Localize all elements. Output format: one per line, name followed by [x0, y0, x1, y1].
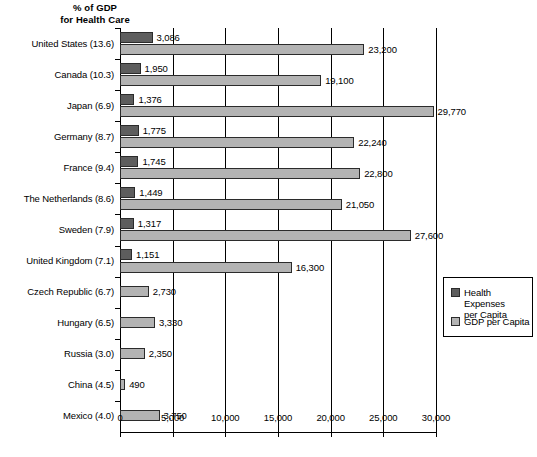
- legend-item-gdp: GDP per Capita: [451, 316, 530, 327]
- bar-value-label: 27,600: [415, 230, 443, 241]
- plot-area: 3,08623,2001,95019,1001,37629,7701,77522…: [120, 28, 436, 432]
- category-label: Czech Republic (6.7): [0, 286, 114, 297]
- bar-value-label: 490: [129, 379, 145, 390]
- y-tickmark: [115, 214, 120, 215]
- bar-health-expenses: [120, 156, 138, 167]
- y-tickmark: [115, 121, 120, 122]
- bar-value-label: 2,730: [153, 286, 176, 297]
- bar-gdp-per-capita: [120, 75, 321, 86]
- bar-value-label: 22,240: [358, 137, 386, 148]
- bar-value-label: 3,086: [157, 32, 180, 43]
- bar-value-label: 1,449: [139, 187, 162, 198]
- x-tickmark: [225, 432, 226, 437]
- category-label: United States (13.6): [0, 38, 114, 49]
- y-tickmark: [115, 28, 120, 29]
- bar-health-expenses: [120, 218, 134, 229]
- x-tick-label: 20,000: [301, 412, 361, 423]
- bar-gdp-per-capita: [120, 262, 292, 273]
- y-tickmark: [115, 59, 120, 60]
- bar-value-label: 22,800: [364, 168, 392, 179]
- bar-value-label: 1,317: [138, 218, 161, 229]
- bar-health-expenses: [120, 32, 153, 43]
- bar-gdp-per-capita: [120, 199, 342, 210]
- x-tickmark: [331, 432, 332, 437]
- category-label: Mexico (4.0): [0, 410, 114, 421]
- category-label: Sweden (7.9): [0, 224, 114, 235]
- bar-health-expenses: [120, 187, 135, 198]
- bar-value-label: 16,300: [296, 262, 324, 273]
- bar-value-label: 23,200: [368, 44, 396, 55]
- bar-gdp-per-capita: [120, 230, 411, 241]
- category-label: France (9.4): [0, 162, 114, 173]
- x-tickmark: [383, 432, 384, 437]
- bar-health-expenses: [120, 63, 141, 74]
- y-tickmark: [115, 308, 120, 309]
- bar-gdp-per-capita: [120, 348, 145, 359]
- category-label: Hungary (6.5): [0, 317, 114, 328]
- y-tickmark: [115, 277, 120, 278]
- bar-value-label: 21,050: [346, 199, 374, 210]
- bar-health-expenses: [120, 94, 134, 105]
- category-label: Japan (6.9): [0, 100, 114, 111]
- category-label: China (4.5): [0, 379, 114, 390]
- bar-gdp-per-capita: [120, 44, 364, 55]
- category-label: Germany (8.7): [0, 131, 114, 142]
- bar-health-expenses: [120, 125, 139, 136]
- bar-gdp-per-capita: [120, 317, 155, 328]
- y-tickmark: [115, 183, 120, 184]
- bar-chart: % of GDPfor Health Care 3,08623,2001,950…: [0, 0, 537, 457]
- bar-value-label: 1,775: [143, 125, 166, 136]
- y-tickmark: [115, 90, 120, 91]
- x-tick-label: 10,000: [195, 412, 255, 423]
- chart-title: % of GDPfor Health Care: [0, 2, 190, 25]
- y-tickmark: [115, 401, 120, 402]
- chart-legend: Health Expenses per Capita GDP per Capit…: [443, 277, 533, 337]
- y-tickmark: [115, 152, 120, 153]
- bar-gdp-per-capita: [120, 379, 125, 390]
- y-tickmark: [115, 339, 120, 340]
- x-tickmark: [278, 432, 279, 437]
- category-label: United Kingdom (7.1): [0, 255, 114, 266]
- bar-health-expenses: [120, 249, 132, 260]
- bar-gdp-per-capita: [120, 137, 354, 148]
- bar-gdp-per-capita: [120, 286, 149, 297]
- x-tickmark: [436, 432, 437, 437]
- x-tick-label: 30,000: [406, 412, 466, 423]
- legend-swatch-icon-health: [451, 288, 460, 297]
- x-tick-label: 15,000: [248, 412, 308, 423]
- bar-gdp-per-capita: [120, 168, 360, 179]
- x-tickmark: [120, 432, 121, 437]
- chart-title-line: % of GDP: [0, 2, 190, 14]
- category-label: The Netherlands (8.6): [0, 193, 114, 204]
- legend-label-gdp: GDP per Capita: [464, 316, 530, 327]
- bar-value-label: 3,330: [159, 317, 182, 328]
- bar-value-label: 29,770: [438, 106, 466, 117]
- legend-swatch-icon-gdp: [451, 317, 460, 326]
- y-tickmark: [115, 246, 120, 247]
- x-tickmark: [173, 432, 174, 437]
- category-label: Russia (3.0): [0, 348, 114, 359]
- category-label: Canada (10.3): [0, 69, 114, 80]
- bar-value-label: 2,350: [149, 348, 172, 359]
- bar-value-label: 1,950: [145, 63, 168, 74]
- bar-value-label: 1,151: [136, 249, 159, 260]
- bar-value-label: 1,376: [138, 94, 161, 105]
- y-tickmark: [115, 370, 120, 371]
- bar-value-label: 19,100: [325, 75, 353, 86]
- x-tick-label: 25,000: [353, 412, 413, 423]
- chart-title-line: for Health Care: [0, 14, 190, 26]
- x-tick-label: 5,000: [143, 412, 203, 423]
- bar-gdp-per-capita: [120, 106, 434, 117]
- bar-value-label: 1,745: [142, 156, 165, 167]
